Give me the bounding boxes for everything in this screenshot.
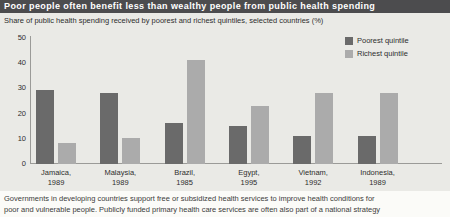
x-axis-label-year: 1989 xyxy=(346,178,410,188)
y-tick-label: 20 xyxy=(2,109,26,118)
x-axis-label: Indonesia,1989 xyxy=(346,168,410,187)
bar-poorest xyxy=(293,136,311,164)
bar-group-malaysia xyxy=(100,93,140,164)
chart-area: Share of public health spending received… xyxy=(0,13,450,191)
bar-poorest xyxy=(100,93,118,164)
y-tick-label: 40 xyxy=(2,58,26,67)
legend-swatch-poorest-icon xyxy=(345,37,353,45)
x-axis-label-country: Egypt, xyxy=(217,168,281,178)
x-axis-label-year: 1995 xyxy=(217,178,281,188)
caption: Governments in developing countries supp… xyxy=(4,194,448,215)
bar-richest xyxy=(315,93,333,164)
bar-richest xyxy=(380,93,398,164)
legend-item-richest: Richest quintile xyxy=(345,49,409,58)
bar-richest xyxy=(58,143,76,163)
bar-poorest xyxy=(36,90,54,163)
legend-label-richest: Richest quintile xyxy=(357,49,408,58)
legend-swatch-richest-icon xyxy=(345,50,353,58)
bar-group-vietnam xyxy=(293,93,333,164)
y-tick-label: 30 xyxy=(2,83,26,92)
legend-label-poorest: Poorest quintile xyxy=(357,36,409,45)
bar-poorest xyxy=(165,123,183,163)
bar-group-brazil xyxy=(165,60,205,163)
chart-title: Poor people often benefit less than weal… xyxy=(4,1,375,11)
x-axis-label-year: 1992 xyxy=(281,178,345,188)
bar-group-egypt xyxy=(229,106,269,164)
legend: Poorest quintile Richest quintile xyxy=(345,36,409,62)
bar-richest xyxy=(187,60,205,163)
chart-title-bar: Poor people often benefit less than weal… xyxy=(0,0,450,13)
y-tick-label: 10 xyxy=(2,134,26,143)
x-axis-label: Vietnam,1992 xyxy=(281,168,345,187)
infographic: Poor people often benefit less than weal… xyxy=(0,0,450,217)
x-axis-label-country: Brazil, xyxy=(153,168,217,178)
x-axis-label: Brazil,1985 xyxy=(153,168,217,187)
x-axis-label-year: 1985 xyxy=(153,178,217,188)
legend-item-poorest: Poorest quintile xyxy=(345,36,409,45)
bar-group-indonesia xyxy=(358,93,398,164)
y-tick-label: 50 xyxy=(2,33,26,42)
y-tick-label: 0 xyxy=(2,159,26,168)
x-axis-label-year: 1989 xyxy=(24,178,88,188)
bar-richest xyxy=(251,106,269,164)
x-axis-label: Egypt,1995 xyxy=(217,168,281,187)
x-axis-label: Malaysia,1989 xyxy=(88,168,152,187)
y-axis-line xyxy=(30,36,31,164)
x-axis-label-country: Malaysia, xyxy=(88,168,152,178)
x-axis-label-year: 1989 xyxy=(88,178,152,188)
x-axis-label: Jamaica,1989 xyxy=(24,168,88,187)
x-axis-label-country: Vietnam, xyxy=(281,168,345,178)
x-axis-label-country: Jamaica, xyxy=(24,168,88,178)
bar-group-jamaica xyxy=(36,90,76,163)
bar-poorest xyxy=(229,126,247,164)
caption-line-1: Governments in developing countries supp… xyxy=(4,194,448,205)
bar-poorest xyxy=(358,136,376,164)
caption-line-2: poor and vulnerable people. Publicly fun… xyxy=(4,205,448,216)
bar-richest xyxy=(122,138,140,163)
plot-area: Poorest quintile Richest quintile 010203… xyxy=(0,13,450,191)
x-axis-label-country: Indonesia, xyxy=(346,168,410,178)
